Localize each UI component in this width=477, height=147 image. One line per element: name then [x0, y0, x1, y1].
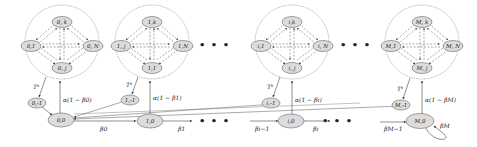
in-label-M: βM−1 [383, 125, 402, 133]
node-i-j: i, j [282, 63, 302, 74]
up-label-M: α(1 − βM) [425, 96, 457, 104]
tau-label-M: Ts [397, 85, 403, 92]
node-1-0: 1,0 [137, 114, 163, 128]
markov-chain-diagram: 0, k 0,1 0, N 0, j 0,-1 Ts α(1 − β0) 0,0… [0, 0, 477, 147]
node-i-N: i, N [313, 41, 333, 52]
svg-text:1,-1: 1,-1 [125, 97, 136, 103]
svg-text:0,1: 0,1 [27, 43, 36, 49]
cluster-i: i,k i,1 i, N i, j [251, 5, 333, 79]
out-label-i: βi [312, 125, 318, 133]
out-label-0: β0 [99, 125, 107, 133]
svg-text:i,0: i,0 [287, 118, 295, 124]
node-M-minus1: M,-1 [392, 100, 410, 110]
up-label-1: α(1 − β1) [153, 94, 182, 102]
svg-text:i,1: i,1 [257, 43, 264, 49]
tau-label-0: Ts [33, 83, 39, 90]
svg-text:i, N: i, N [318, 43, 328, 49]
node-0-minus1: 0,-1 [28, 98, 46, 108]
svg-text:i,k: i,k [289, 19, 297, 25]
node-0-1: 0,1 [21, 41, 41, 52]
svg-text:1,k: 1,k [148, 19, 157, 25]
node-1-k: 1,k [142, 17, 162, 28]
cluster-1: 1,k 1, j 1,N 1,1 [111, 5, 193, 79]
svg-text:M,-1: M,-1 [394, 102, 408, 108]
ellipsis-bottom-1: • • • [199, 115, 230, 126]
node-i-1: i,1 [251, 41, 271, 52]
node-M-1: M,1 [381, 41, 401, 52]
svg-text:i, j: i, j [289, 65, 296, 72]
node-1-minus1: 1,-1 [121, 95, 139, 105]
in-label-i: βi−1 [254, 125, 269, 133]
svg-text:1, j: 1, j [117, 43, 126, 50]
node-0-j: 0, j [52, 63, 72, 74]
node-0-N: 0, N [83, 41, 103, 52]
cluster-i-internal-edges [266, 24, 318, 64]
node-0-k: 0, k [52, 17, 72, 28]
node-1-j: 1, j [111, 41, 131, 52]
node-M-N: M, N [443, 41, 463, 52]
cluster-0: 0, k 0,1 0, N 0, j [21, 5, 103, 79]
edge-cluster1-to-exit [132, 77, 138, 94]
node-M-0: M,0 [406, 114, 434, 129]
ellipsis-top-2: • • • [340, 39, 371, 50]
svg-text:0,0: 0,0 [57, 117, 66, 123]
edge-cluster0-to-exit [39, 77, 46, 97]
long-line-1 [74, 103, 360, 114]
self-loop-label-M: βM [439, 122, 450, 130]
svg-text:0,-1: 0,-1 [32, 100, 43, 106]
node-1-1: 1,1 [142, 63, 162, 74]
node-i-k: i,k [282, 17, 302, 28]
svg-text:M, N: M, N [445, 43, 460, 49]
node-i-minus1: i,-1 [262, 98, 280, 108]
tau-label-1: Ts [126, 81, 132, 88]
edge-clusteri-to-exit [273, 77, 280, 97]
up-label-0: α(1 − β0) [63, 96, 92, 104]
node-i-0: i,0 [278, 114, 304, 128]
svg-text:M,1: M,1 [385, 43, 397, 49]
svg-text:0, k: 0, k [57, 19, 68, 25]
tau-label-i: Ts [267, 83, 273, 90]
svg-text:i,-1: i,-1 [267, 100, 276, 106]
cluster-M-internal-edges [396, 24, 448, 64]
node-M-k: M, k [412, 17, 432, 28]
svg-text:1,N: 1,N [178, 43, 188, 49]
up-label-i: α(1 − βi) [295, 96, 322, 104]
svg-text:M, j: M, j [416, 65, 428, 72]
svg-text:0, N: 0, N [87, 43, 99, 49]
cluster-0-internal-edges [36, 24, 88, 64]
svg-text:0, j: 0, j [58, 65, 67, 72]
svg-text:1,0: 1,0 [146, 118, 155, 124]
edge-exit0-to-base [42, 107, 52, 115]
node-1-N: 1,N [173, 41, 193, 52]
svg-text:1,1: 1,1 [148, 65, 157, 71]
svg-text:M, k: M, k [415, 19, 429, 25]
node-0-0: 0,0 [48, 113, 74, 127]
cluster-1-internal-edges [126, 24, 178, 64]
node-M-j: M, j [412, 63, 432, 74]
out-label-1: β1 [177, 125, 185, 133]
ellipsis-top-1: • • • [199, 39, 230, 50]
edge-clusterM-to-exit [403, 78, 410, 99]
svg-text:M,0: M,0 [414, 118, 426, 124]
ellipsis-bottom-2: • • • [322, 115, 353, 126]
cluster-M: M, k M,1 M, N M, j [381, 5, 463, 79]
